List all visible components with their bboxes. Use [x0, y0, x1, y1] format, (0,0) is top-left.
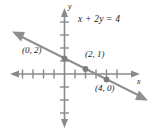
y-axis-arrow-up [61, 8, 68, 17]
point-marker-0-2 [62, 56, 68, 62]
equation-label: x + 2y = 4 [78, 15, 120, 25]
coordinate-plane [0, 0, 152, 134]
point-marker-2-1 [83, 66, 89, 72]
point-label-2-1: (2, 1) [85, 50, 105, 59]
line-arrow-upper-left [12, 32, 25, 42]
y-axis-label: y [68, 3, 72, 11]
y-axis-arrow-down [61, 119, 68, 128]
point-label-0-2: (0, 2) [22, 46, 42, 55]
y-axis [61, 8, 68, 128]
x-axis-arrow-left [10, 71, 19, 78]
line-arrow-lower-right [135, 91, 148, 101]
point-marker-4-0 [104, 77, 110, 83]
graph-figure: x + 2y = 4 y x (0, 2) (2, 1) (4, 0) [0, 0, 152, 134]
point-label-4-0: (4, 0) [95, 84, 115, 93]
x-axis-label: x [137, 78, 141, 86]
plotted-line [12, 32, 148, 101]
